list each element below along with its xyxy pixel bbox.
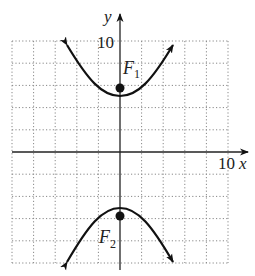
f2-subscript: 2: [110, 237, 116, 251]
focus-f2-point: [116, 212, 125, 221]
y-axis-label: y: [102, 7, 112, 26]
x-axis-label: x: [238, 154, 247, 173]
focus-f1-point: [116, 84, 125, 93]
f1-subscript: 1: [134, 67, 140, 81]
y-tick-label: 10: [97, 33, 114, 52]
axes: [12, 14, 248, 270]
x-tick-label: 10: [218, 154, 235, 173]
hyperbola-chart: y 10 10 x F 1 F 2: [0, 0, 255, 276]
